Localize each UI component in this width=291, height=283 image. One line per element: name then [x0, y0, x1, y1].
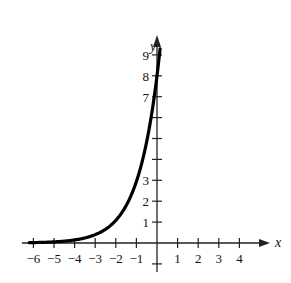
x-tick-label: −2	[109, 251, 123, 266]
x-tick-label: −6	[26, 251, 40, 266]
y-tick-label: 1	[143, 215, 150, 230]
x-tick-label: 4	[236, 251, 243, 266]
x-axis-arrow-icon	[259, 239, 270, 247]
x-tick-label: 2	[195, 251, 202, 266]
x-tick-label: 1	[174, 251, 181, 266]
y-axis-label: y	[148, 39, 157, 54]
x-tick-label: 3	[216, 251, 223, 266]
y-tick-label: 9	[143, 48, 150, 63]
x-axis-label: x	[274, 235, 282, 250]
y-tick-label: 8	[143, 69, 150, 84]
y-tick-label: 3	[143, 173, 150, 188]
x-tick-label: −5	[47, 251, 61, 266]
x-tick-label: −3	[88, 251, 102, 266]
y-ticks: 123789	[143, 48, 163, 264]
x-tick-label: −4	[68, 251, 82, 266]
y-tick-label: 2	[143, 194, 150, 209]
exponential-graph: x y −6−5−4−3−2−11234 123789	[0, 0, 291, 283]
exponential-curve	[29, 49, 160, 243]
y-tick-label: 7	[143, 90, 150, 105]
x-tick-label: −1	[129, 251, 143, 266]
axes: x y	[22, 35, 282, 272]
